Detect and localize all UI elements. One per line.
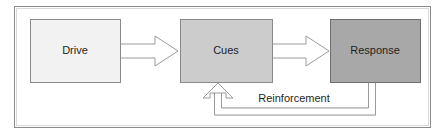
node-cues-label: Cues <box>213 44 239 56</box>
diagram-canvas: Drive Cues Response Reinforcement <box>0 0 447 140</box>
edge-label-reinforcement: Reinforcement <box>248 91 340 106</box>
diagram-svg: Drive Cues Response Reinforcement <box>0 0 447 140</box>
node-response-label: Response <box>350 44 400 56</box>
node-drive-label: Drive <box>62 44 88 56</box>
arrow-drive-to-cues <box>120 36 178 66</box>
arrow-cues-to-response <box>272 36 329 66</box>
edge-label-reinforcement-text: Reinforcement <box>258 92 330 104</box>
node-drive[interactable]: Drive <box>31 20 121 83</box>
node-cues[interactable]: Cues <box>181 20 273 83</box>
node-response[interactable]: Response <box>331 20 421 83</box>
